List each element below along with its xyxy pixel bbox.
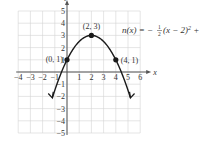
x-tick-label: −2 <box>38 73 47 82</box>
y-tick-label: 2 <box>61 44 65 53</box>
x-tick-label: −4 <box>14 73 23 82</box>
x-tick-label: −3 <box>26 73 35 82</box>
y-tick-label: −3 <box>56 105 65 114</box>
y-tick-label: −2 <box>56 92 65 101</box>
point-marker <box>89 33 94 38</box>
svg-text:1: 1 <box>158 24 161 30</box>
x-tick-label: 5 <box>126 73 130 82</box>
x-tick-label: 4 <box>114 73 118 82</box>
y-tick-label: −5 <box>56 129 65 138</box>
arrowhead-icon <box>48 92 53 98</box>
y-axis-label: y <box>64 0 69 1</box>
svg-text:n(x) = −: n(x) = − <box>122 25 153 35</box>
x-axis-label: x <box>152 68 157 77</box>
x-tick-label: 2 <box>89 73 93 82</box>
x-tick-label: 1 <box>77 73 81 82</box>
point-marker <box>64 57 69 62</box>
arrowhead-icon <box>130 92 135 98</box>
y-tick-label: 4 <box>61 19 65 28</box>
y-tick-label: 3 <box>61 31 65 40</box>
point-label: (4, 1) <box>121 56 139 65</box>
function-label: n(x) = − 1 2 (x − 2)2 + 3 <box>122 24 200 37</box>
svg-text:2: 2 <box>158 31 161 37</box>
point-marker <box>113 57 118 62</box>
x-tick-label: 3 <box>102 73 106 82</box>
y-tick-label: 5 <box>61 7 65 16</box>
y-tick-label: −4 <box>56 117 65 126</box>
parabola-graph: −4−3−2−1123456−5−4−3−2−112345 (0, 1)(2, … <box>0 0 200 147</box>
axes <box>16 0 151 135</box>
x-tick-label: 6 <box>138 73 142 82</box>
svg-text:(x − 2)2 + 3: (x − 2)2 + 3 <box>163 25 200 35</box>
point-label: (2, 3) <box>83 22 101 31</box>
point-label: (0, 1) <box>46 55 64 64</box>
x-axis-arrow-icon <box>146 70 151 74</box>
